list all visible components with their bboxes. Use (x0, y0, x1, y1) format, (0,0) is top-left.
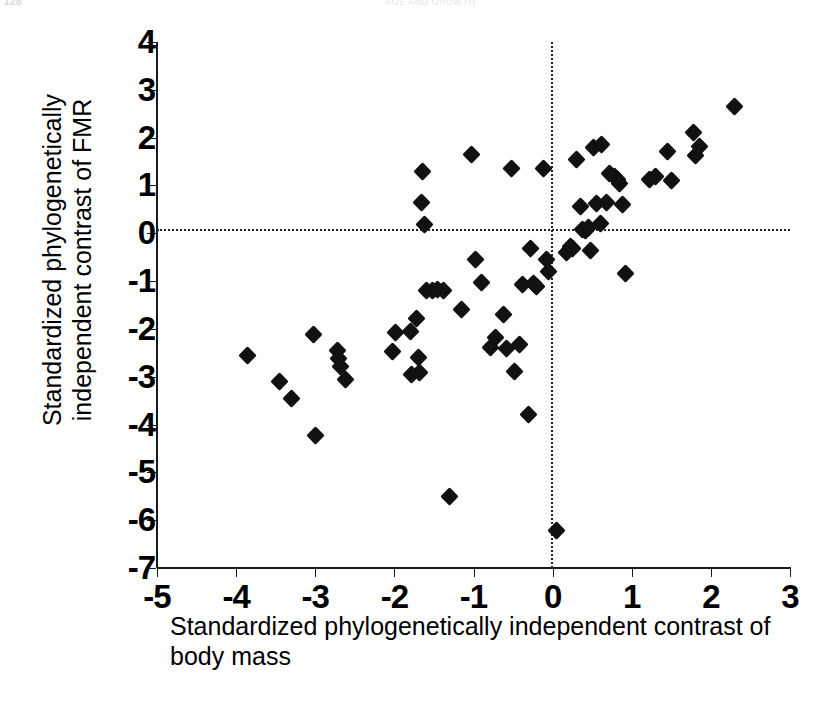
x-tick-label: 1 (602, 580, 662, 613)
plot-area: 43210-1-2-3-4-5-6-7 -5-4-3-2-10123 (157, 42, 790, 568)
x-tick (711, 568, 712, 577)
data-point (521, 239, 539, 257)
data-point (304, 325, 322, 343)
x-tick (236, 568, 237, 577)
data-point (613, 195, 631, 213)
data-point (502, 160, 520, 178)
y-tick-label: 2 (107, 121, 155, 154)
x-tick-label: 0 (523, 580, 583, 613)
x-tick (553, 568, 554, 577)
data-point (616, 265, 634, 283)
data-point (725, 97, 743, 115)
y-axis-title: Standardized phylogenetically independen… (37, 25, 97, 495)
data-point (494, 305, 512, 323)
x-tick (632, 568, 633, 577)
y-tick-label: 1 (107, 168, 155, 201)
data-point (581, 241, 599, 259)
x-tick (790, 568, 791, 577)
data-point (520, 405, 538, 423)
x-tick (157, 568, 158, 577)
x-tick-label: -4 (206, 580, 266, 613)
zero-reference-line-vertical (551, 42, 553, 568)
x-tick (474, 568, 475, 577)
zero-reference-line-horizontal (157, 229, 790, 231)
data-point (463, 145, 481, 163)
data-point (414, 162, 432, 180)
y-tick-label: 4 (107, 25, 155, 58)
data-point (571, 198, 589, 216)
data-point (270, 372, 288, 390)
page-folio: 128 (4, 0, 22, 7)
data-point (441, 487, 459, 505)
data-point (505, 363, 523, 381)
data-point (306, 426, 324, 444)
data-point (452, 301, 470, 319)
x-tick-label: -3 (285, 580, 345, 613)
x-tick (394, 568, 395, 577)
data-point (412, 193, 430, 211)
x-tick (315, 568, 316, 577)
page-header: 128 AGE AND GROWTH (0, 0, 825, 12)
x-tick-label: 3 (760, 580, 820, 613)
y-tick-label: -2 (107, 312, 155, 345)
y-tick-label: -4 (107, 408, 155, 441)
data-point (466, 250, 484, 268)
data-point (658, 143, 676, 161)
data-point (282, 389, 300, 407)
x-axis-title: Standardized phylogenetically independen… (170, 612, 790, 671)
y-tick-label: -5 (107, 455, 155, 488)
x-tick-label: 2 (681, 580, 741, 613)
scatter-plot-figure: 128 AGE AND GROWTH 43210-1-2-3-4-5-6-7 -… (0, 0, 825, 706)
data-point (239, 346, 257, 364)
y-tick-label: 3 (107, 73, 155, 106)
x-tick-label: -1 (444, 580, 504, 613)
running-head: AGE AND GROWTH (385, 0, 476, 7)
y-tick-label: -1 (107, 264, 155, 297)
data-point (534, 160, 552, 178)
data-point (384, 343, 402, 361)
data-point (567, 150, 585, 168)
data-point (662, 171, 680, 189)
y-axis-title-line2: independent contrast of FMR (67, 25, 97, 495)
x-axis-title-line1: Standardized phylogenetically independen… (170, 612, 647, 640)
y-tick-label: 0 (107, 216, 155, 249)
data-point (472, 273, 490, 291)
x-tick-label: -2 (364, 580, 424, 613)
y-tick-label: -3 (107, 360, 155, 393)
y-tick-label: -6 (107, 503, 155, 536)
y-axis-title-line1: Standardized phylogenetically (37, 25, 67, 495)
x-tick-label: -5 (127, 580, 187, 613)
y-axis-line (156, 42, 158, 568)
